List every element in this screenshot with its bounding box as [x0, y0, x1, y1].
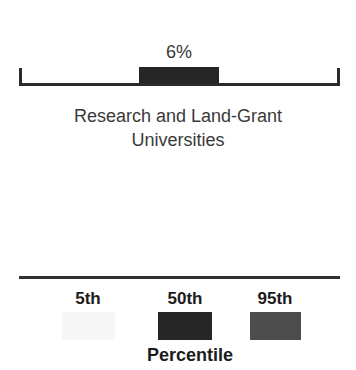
legend-item-95th-label: 95th	[242, 288, 308, 309]
legend-title: Percentile	[120, 344, 260, 366]
legend-item-5th: 5th	[55, 288, 121, 340]
legend-item-5th-swatch	[62, 312, 115, 340]
category-label-line-1: Research and Land-Grant	[8, 104, 348, 128]
category-label: Research and Land-Grant Universities	[8, 104, 348, 152]
axis-baseline	[19, 83, 340, 86]
legend-divider	[19, 276, 340, 279]
legend-item-95th: 95th	[242, 288, 308, 340]
category-label-line-2: Universities	[8, 128, 348, 152]
chart-figure: 6% Research and Land-Grant Universities …	[0, 0, 356, 370]
bar-value-label: 6%	[139, 41, 219, 63]
legend-item-50th-label: 50th	[152, 288, 218, 309]
axis-cap-right-tick	[337, 68, 340, 86]
legend-item-95th-swatch	[250, 312, 301, 340]
legend-item-50th: 50th	[152, 288, 218, 340]
legend-item-50th-swatch	[158, 312, 212, 340]
legend-item-5th-label: 5th	[55, 288, 121, 309]
axis-cap-left-tick	[19, 68, 22, 86]
